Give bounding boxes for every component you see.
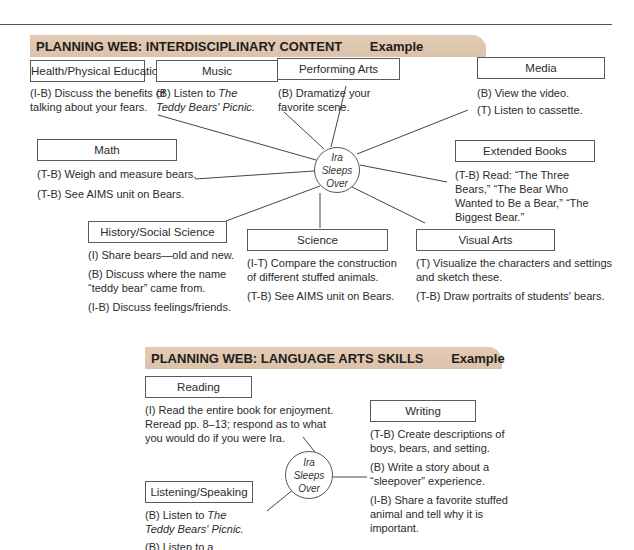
web2-example-tag: Example (451, 351, 504, 366)
category-music: Music (156, 60, 278, 82)
activity-item: (I) Read the entire book for enjoyment. … (145, 403, 345, 445)
web1-example-tag: Example (370, 39, 423, 54)
activity-item: (T-B) Create descriptions of boys, bears… (370, 427, 510, 455)
category-reading: Reading (145, 376, 252, 398)
activity-item: (B) Listen to a cassette (145, 540, 255, 550)
music-activities: (B) Listen to TheTeddy Bears' Picnic. (156, 86, 286, 118)
history-activities: (I) Share bears—old and new. (B) Discuss… (88, 248, 238, 318)
activity-item: (I-B) Discuss the benefits of talking ab… (30, 86, 170, 114)
category-label: Performing Arts (299, 63, 378, 75)
category-label: Media (525, 62, 556, 74)
activity-item: (B) Listen to TheTeddy Bears' Picnic. (156, 86, 286, 114)
category-label: Science (297, 234, 338, 246)
activity-item: (T-B) Weigh and measure bears. (37, 167, 207, 181)
visual-arts-activities: (T) Visualize the characters and setting… (416, 256, 616, 307)
math-activities: (T-B) Weigh and measure bears. (T-B) See… (37, 167, 207, 205)
media-activities: (B) View the video. (T) Listen to casset… (477, 86, 617, 121)
activity-item: (B) Listen to The Teddy Bears' Picnic. (145, 508, 255, 536)
activity-item: (T-B) Read: “The Three Bears,” “The Bear… (455, 168, 605, 224)
hub-line: Over (298, 482, 320, 495)
category-label: Writing (405, 405, 441, 417)
category-math: Math (37, 139, 177, 161)
web2-title: PLANNING WEB: LANGUAGE ARTS SKILLS (151, 351, 424, 366)
web1-hub-book-title: Ira Sleeps Over (314, 147, 360, 193)
activity-item: (B) Discuss where the name “teddy bear” … (88, 267, 238, 295)
activity-prefix: (B) Listen to (156, 87, 218, 99)
category-label: Music (202, 65, 232, 77)
performing-arts-activities: (B) Dramatize your favorite scene. (278, 86, 388, 118)
activity-item: (I-T) Compare the construction of differ… (247, 256, 407, 284)
activity-item: (B) Write a story about a “sleepover” ex… (370, 460, 510, 488)
book-title: The (218, 87, 237, 99)
category-health-physical-education: Health/Physical Education (30, 60, 145, 82)
science-activities: (I-T) Compare the construction of differ… (247, 256, 407, 307)
category-label: Visual Arts (458, 234, 512, 246)
category-listening-speaking: Listening/Speaking (145, 481, 253, 503)
category-label: History/Social Science (100, 226, 214, 238)
hub-line: Ira (331, 151, 343, 164)
category-extended-books: Extended Books (455, 140, 595, 162)
category-label: Reading (177, 381, 220, 393)
activity-item: (T-B) Draw portraits of students' bears. (416, 289, 616, 303)
web1-title: PLANNING WEB: INTERDISCIPLINARY CONTENT (36, 39, 342, 54)
category-writing: Writing (370, 400, 476, 422)
listening-activities: (B) Listen to The Teddy Bears' Picnic. (… (145, 508, 255, 550)
hub-line: Ira (303, 456, 315, 469)
category-history-social-science: History/Social Science (88, 221, 227, 243)
activity-item: (B) View the video. (477, 86, 617, 100)
category-science: Science (247, 229, 388, 251)
hub-line: Sleeps (322, 164, 353, 177)
health-activities: (I-B) Discuss the benefits of talking ab… (30, 86, 170, 118)
category-label: Extended Books (483, 145, 567, 157)
category-label: Listening/Speaking (150, 486, 247, 498)
activity-item: (B) Dramatize your favorite scene. (278, 86, 388, 114)
hub-line: Sleeps (294, 469, 325, 482)
hub-line: Over (326, 177, 348, 190)
category-performing-arts: Performing Arts (277, 58, 400, 80)
category-label: Math (94, 144, 120, 156)
activity-item: (I-B) Share a favorite stuffed animal an… (370, 493, 510, 535)
book-title: Teddy Bears' Picnic. (156, 101, 255, 113)
category-visual-arts: Visual Arts (416, 229, 555, 251)
web1-header: PLANNING WEB: INTERDISCIPLINARY CONTENT … (30, 35, 486, 57)
reading-activities: (I) Read the entire book for enjoyment. … (145, 403, 345, 449)
activity-item: (T-B) See AIMS unit on Bears. (247, 289, 407, 303)
activity-item: (T) Visualize the characters and setting… (416, 256, 616, 284)
web2-hub-book-title: Ira Sleeps Over (285, 451, 333, 499)
activity-prefix: (B) Listen to (145, 509, 207, 521)
category-media: Media (477, 57, 605, 79)
web2-header: PLANNING WEB: LANGUAGE ARTS SKILLS Examp… (145, 347, 502, 369)
activity-item: (I) Share bears—old and new. (88, 248, 238, 262)
activity-item: (I-B) Discuss feelings/friends. (88, 300, 238, 314)
category-label: Health/Physical Education (31, 65, 165, 77)
extended-books-activities: (T-B) Read: “The Three Bears,” “The Bear… (455, 168, 605, 228)
writing-activities: (T-B) Create descriptions of boys, bears… (370, 427, 510, 539)
activity-item: (T-B) See AIMS unit on Bears. (37, 187, 207, 201)
activity-item: (T) Listen to cassette. (477, 103, 617, 117)
